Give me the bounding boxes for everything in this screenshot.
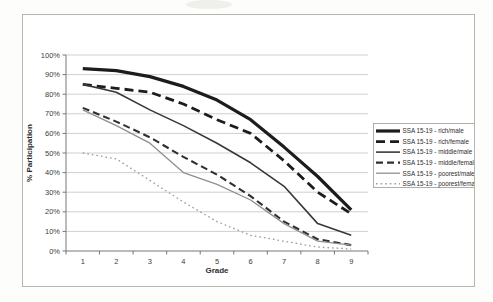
y-tick-label: 70% — [45, 109, 60, 118]
x-tick-label: 4 — [181, 257, 185, 266]
series-line-ssa-15-19-poorest-female — [83, 153, 351, 249]
participation-line-chart: 0%10%20%30%40%50%60%70%80%90%100%1234567… — [23, 15, 474, 286]
series-line-ssa-15-19-rich-female — [83, 84, 351, 213]
y-tick-label: 30% — [45, 188, 60, 197]
y-tick-label: 40% — [45, 168, 60, 177]
x-tick-label: 8 — [316, 257, 320, 266]
x-tick-label: 6 — [248, 257, 252, 266]
y-tick-label: 10% — [45, 227, 60, 236]
series-line-ssa-15-19-middle-male — [83, 84, 351, 235]
y-tick-label: 100% — [41, 51, 61, 60]
y-tick-label: 80% — [45, 90, 60, 99]
plot-area: 0%10%20%30%40%50%60%70%80%90%100%1234567… — [41, 51, 474, 266]
x-tick-label: 9 — [349, 257, 353, 266]
y-tick-label: 50% — [45, 149, 60, 158]
x-tick-label: 7 — [282, 257, 286, 266]
y-tick-label: 0% — [49, 247, 60, 256]
x-tick-label: 3 — [148, 257, 152, 266]
y-tick-label: 60% — [45, 129, 60, 138]
series-line-ssa-15-19-poorest-male — [83, 110, 351, 245]
legend-label-ssa-15-19-poorest-female: SSA 15-19 - poorest/female — [403, 180, 475, 188]
series-line-ssa-15-19-rich-male — [83, 69, 351, 210]
chart-frame: 0%10%20%30%40%50%60%70%80%90%100%1234567… — [22, 14, 475, 287]
legend-label-ssa-15-19-rich-male: SSA 15-19 - rich/male — [403, 127, 465, 134]
x-axis-title: Grade — [205, 266, 229, 275]
scan-artifact — [186, 0, 232, 9]
y-tick-label: 20% — [45, 207, 60, 216]
y-axis-title: % Participation — [25, 124, 34, 182]
legend-label-ssa-15-19-middle-male: SSA 15-19 - middle/male — [403, 148, 473, 155]
y-tick-label: 90% — [45, 70, 60, 79]
legend-label-ssa-15-19-poorest-male: SSA 15-19 - poorest/male — [403, 170, 475, 178]
legend-label-ssa-15-19-rich-female: SSA 15-19 - rich/female — [403, 138, 470, 145]
x-tick-label: 2 — [114, 257, 118, 266]
x-tick-label: 5 — [215, 257, 219, 266]
legend-label-ssa-15-19-middle-female: SSA 15-19 - middle/female — [403, 159, 475, 166]
x-tick-label: 1 — [81, 257, 85, 266]
